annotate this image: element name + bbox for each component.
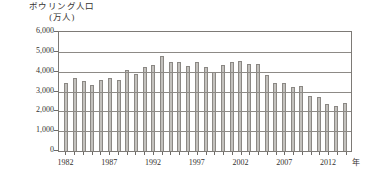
x-axis-tick — [179, 152, 180, 155]
x-axis-tick — [249, 152, 250, 155]
x-axis-tick — [153, 152, 154, 155]
bar — [291, 87, 295, 151]
x-axis-tick — [144, 152, 145, 155]
x-axis-tick — [232, 152, 233, 155]
plot-area — [58, 31, 352, 152]
bar — [247, 64, 251, 151]
y-axis-tick-label: 6,000 — [36, 27, 54, 35]
bar — [186, 66, 190, 151]
x-axis-tick — [214, 152, 215, 155]
x-axis-tick — [293, 152, 294, 155]
x-axis-tick — [302, 152, 303, 155]
x-axis-tick-label: 1982 — [57, 158, 73, 168]
x-axis-tick-label: 2007 — [276, 158, 292, 168]
bar — [177, 62, 181, 151]
x-axis-tick — [346, 152, 347, 155]
bar — [221, 65, 225, 151]
bowling-population-chart: ボウリング人口 (万人) 6,0005,0004,0003,0002,0001,… — [0, 0, 366, 186]
bar — [169, 62, 173, 151]
bar — [308, 96, 312, 151]
x-axis-tick — [276, 152, 277, 155]
bar — [204, 67, 208, 151]
bar — [299, 86, 303, 151]
x-axis-tick — [74, 152, 75, 155]
bar — [195, 62, 199, 151]
bar — [151, 65, 155, 151]
bar — [64, 83, 68, 151]
x-axis-tick — [170, 152, 171, 155]
gridline — [59, 72, 351, 73]
y-axis-tick-label: 3,000 — [36, 87, 54, 95]
x-axis-labels: 年 1982198719921997200220072012 — [0, 158, 366, 172]
x-axis-tick-label: 2002 — [233, 158, 249, 168]
x-axis-tick — [188, 152, 189, 155]
x-axis-tick — [258, 152, 259, 155]
gridline — [59, 52, 351, 53]
x-axis-tick — [328, 152, 329, 155]
x-axis-tick — [65, 152, 66, 155]
x-axis-tick — [267, 152, 268, 155]
gridline — [59, 131, 351, 132]
bar — [90, 85, 94, 151]
x-axis-tick — [83, 152, 84, 155]
x-axis-tick-label: 1992 — [145, 158, 161, 168]
bar — [134, 74, 138, 151]
x-axis-tick — [92, 152, 93, 155]
bar — [99, 80, 103, 151]
x-axis-tick — [223, 152, 224, 155]
y-axis-tick-label: 1,000 — [36, 126, 54, 134]
x-axis-tick — [284, 152, 285, 155]
x-axis-unit-label: 年 — [352, 158, 360, 168]
bar — [317, 97, 321, 151]
y-axis-tick-label: 2,000 — [36, 106, 54, 114]
bar — [230, 62, 234, 151]
bar — [143, 67, 147, 151]
bar — [334, 106, 338, 151]
bar — [265, 75, 269, 151]
bar — [160, 56, 164, 151]
x-axis-tick-label: 1997 — [189, 158, 205, 168]
x-axis-tick — [100, 152, 101, 155]
gridline — [59, 92, 351, 93]
x-axis-tick — [135, 152, 136, 155]
x-axis-tick — [127, 152, 128, 155]
x-axis-tick — [206, 152, 207, 155]
bar — [238, 61, 242, 151]
y-axis-tick-label: 5,000 — [36, 47, 54, 55]
x-axis-tick — [109, 152, 110, 155]
x-axis-tick — [311, 152, 312, 155]
bar — [256, 64, 260, 151]
bar — [108, 78, 112, 151]
bar — [73, 78, 77, 151]
x-axis-tick — [197, 152, 198, 155]
bar — [273, 83, 277, 151]
x-axis-ticks — [58, 152, 352, 156]
y-axis-tick-label: 4,000 — [36, 67, 54, 75]
x-axis-tick — [319, 152, 320, 155]
bar — [282, 83, 286, 151]
bar — [117, 80, 121, 151]
x-axis-tick — [162, 152, 163, 155]
x-axis-tick — [337, 152, 338, 155]
x-axis-tick-label: 2012 — [320, 158, 336, 168]
x-axis-tick — [241, 152, 242, 155]
x-axis-tick — [118, 152, 119, 155]
x-axis-tick-label: 1987 — [101, 158, 117, 168]
gridline — [59, 111, 351, 112]
